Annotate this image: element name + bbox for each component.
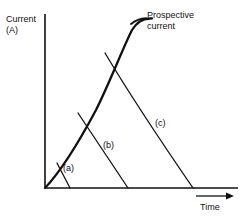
prospective-current-label: Prospective current (147, 10, 194, 32)
y-axis-label: Current (A) (6, 14, 36, 35)
curve-label-c: (c) (155, 118, 166, 128)
curve-b-falling-edge (78, 113, 128, 188)
x-axis-label: Time (200, 202, 220, 213)
curve-label-b: (b) (103, 140, 114, 150)
curve-label-a: (a) (63, 163, 74, 173)
curve-c-falling-edge (105, 53, 193, 188)
current-vs-time-chart (0, 0, 243, 218)
time-direction-arrow-icon (196, 193, 234, 200)
